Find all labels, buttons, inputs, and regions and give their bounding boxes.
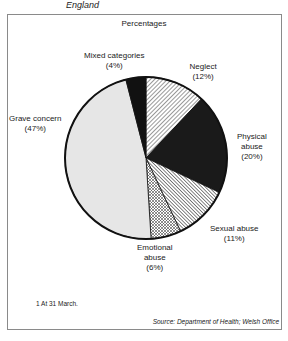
slice-value-label: (11%) bbox=[210, 234, 258, 244]
slice-value-label: (20%) bbox=[237, 152, 267, 162]
slice-name-label: abuse bbox=[137, 253, 173, 263]
slice-label-mixed-categories: Mixed categories(4%) bbox=[84, 51, 144, 71]
footnote: 1 At 31 March. bbox=[36, 300, 78, 307]
slice-name-label: Physical bbox=[237, 132, 267, 142]
slice-name-label: Grave concern bbox=[9, 114, 61, 124]
source-note: Source: Department of Health; Welsh Offi… bbox=[153, 318, 279, 325]
slice-name-label: Emotional bbox=[137, 243, 173, 253]
slice-value-label: (6%) bbox=[137, 263, 173, 273]
slice-value-label: (12%) bbox=[190, 72, 217, 82]
slice-label-sexual-abuse: Sexual abuse(11%) bbox=[210, 224, 258, 244]
slice-label-emotional-abuse: Emotionalabuse(6%) bbox=[137, 243, 173, 273]
slice-name-label: Sexual abuse bbox=[210, 224, 258, 234]
slice-label-neglect: Neglect(12%) bbox=[190, 62, 217, 82]
slice-label-physical-abuse: Physicalabuse(20%) bbox=[237, 132, 267, 162]
slice-value-label: (4%) bbox=[84, 61, 144, 71]
slice-name-label: abuse bbox=[237, 142, 267, 152]
slice-name-label: Mixed categories bbox=[84, 51, 144, 61]
slice-value-label: (47%) bbox=[9, 124, 61, 134]
slice-name-label: Neglect bbox=[190, 62, 217, 72]
slice-label-grave-concern: Grave concern(47%) bbox=[9, 114, 61, 134]
